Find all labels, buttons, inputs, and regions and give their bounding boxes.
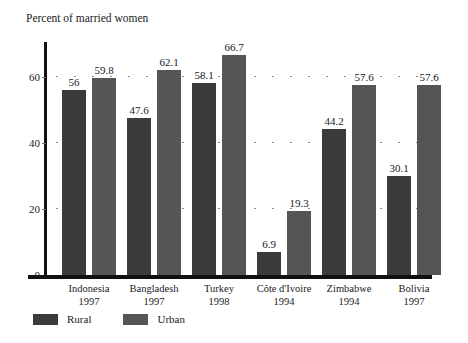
- bar-value-label: 47.6: [129, 104, 148, 116]
- bar-fill: [192, 83, 216, 275]
- bar-value-label: 19.3: [289, 197, 308, 209]
- y-tick-mark: [42, 143, 46, 144]
- bar-group: 44.257.6: [322, 44, 376, 275]
- bar-value-label: 30.1: [389, 162, 408, 174]
- bar-chart: Percent of married women 0204060 5659.84…: [0, 0, 468, 343]
- bar-urban[interactable]: 19.3: [287, 211, 311, 275]
- bar-rural[interactable]: 44.2: [322, 129, 346, 275]
- category-name: Côte d'Ivoire: [257, 283, 312, 294]
- bar-rural[interactable]: 47.6: [127, 118, 151, 275]
- legend-label: Rural: [67, 313, 91, 325]
- category-label: Bolivia1997: [374, 282, 454, 308]
- legend-item-rural[interactable]: Rural: [33, 313, 91, 325]
- bar-value-label: 56: [69, 76, 80, 88]
- bar-group: 30.157.6: [387, 44, 441, 275]
- bar-rural[interactable]: 58.1: [192, 83, 216, 275]
- chart-title: Percent of married women: [26, 11, 148, 25]
- bar-urban[interactable]: 66.7: [222, 55, 246, 275]
- bar-value-label: 59.8: [94, 64, 113, 76]
- bar-fill: [92, 78, 116, 275]
- bar-group: 47.662.1: [127, 44, 181, 275]
- bar-value-label: 57.6: [419, 71, 438, 83]
- bar-fill: [257, 252, 281, 275]
- category-name: Indonesia: [69, 283, 110, 294]
- bar-fill: [352, 85, 376, 275]
- bar-fill: [417, 85, 441, 275]
- category-name: Bolivia: [399, 283, 430, 294]
- bar-urban[interactable]: 59.8: [92, 78, 116, 275]
- y-tick-mark: [42, 209, 46, 210]
- category-name: Bangladesh: [130, 283, 179, 294]
- bar-group: 58.166.7: [192, 44, 246, 275]
- bar-group: 5659.8: [62, 44, 116, 275]
- bar-urban[interactable]: 57.6: [417, 85, 441, 275]
- chart-legend: RuralUrban: [33, 313, 185, 325]
- category-name: Zimbabwe: [327, 283, 372, 294]
- bar-fill: [222, 55, 246, 275]
- bar-fill: [62, 90, 86, 275]
- bar-value-label: 58.1: [194, 69, 213, 81]
- bar-fill: [157, 70, 181, 275]
- legend-swatch: [33, 314, 58, 325]
- y-tick-label: 0: [35, 269, 47, 281]
- bar-urban[interactable]: 57.6: [352, 85, 376, 275]
- bar-fill: [387, 176, 411, 275]
- category-name: Turkey: [204, 283, 234, 294]
- bar-group: 6.919.3: [257, 44, 311, 275]
- bar-value-label: 57.6: [354, 71, 373, 83]
- plot-area: 0204060 5659.847.662.158.166.76.919.344.…: [46, 44, 447, 275]
- y-tick-mark: [42, 77, 46, 78]
- x-axis-baseline: [28, 275, 432, 279]
- legend-item-urban[interactable]: Urban: [123, 313, 185, 325]
- bar-rural[interactable]: 30.1: [387, 176, 411, 275]
- bar-rural[interactable]: 6.9: [257, 252, 281, 275]
- bar-fill: [127, 118, 151, 275]
- bar-value-label: 62.1: [159, 56, 178, 68]
- bar-value-label: 66.7: [224, 41, 243, 53]
- legend-label: Urban: [157, 313, 185, 325]
- legend-swatch: [123, 314, 148, 325]
- bar-value-label: 44.2: [324, 115, 343, 127]
- bar-fill: [322, 129, 346, 275]
- bar-urban[interactable]: 62.1: [157, 70, 181, 275]
- bar-rural[interactable]: 56: [62, 90, 86, 275]
- category-year: 1997: [374, 295, 454, 308]
- bar-value-label: 6.9: [262, 238, 276, 250]
- bar-fill: [287, 211, 311, 275]
